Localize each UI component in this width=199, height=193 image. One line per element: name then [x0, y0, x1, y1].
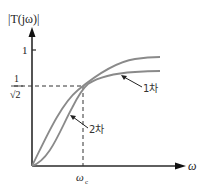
y-axis-title: |T(jω)|: [8, 12, 39, 26]
tick-label-half-power-numerator: 1: [14, 73, 19, 84]
cutoff-tick-subscript: c: [85, 178, 88, 186]
second-order-label: 2차: [89, 124, 104, 135]
x-axis-label: ω: [188, 159, 196, 173]
cutoff-tick-label: ω: [76, 171, 84, 183]
x-axis-arrow-icon: [175, 163, 186, 170]
second-order-pointer: [73, 117, 88, 128]
first-order-pointer: [124, 77, 142, 87]
frequency-response-diagram: |T(jω)| 1 1 √2 1차 2차 ω ω c: [0, 0, 199, 193]
first-order-arrow-icon: [121, 75, 127, 80]
first-order-label: 1차: [143, 83, 158, 94]
second-order-arrow-icon: [70, 115, 76, 120]
tick-label-one: 1: [22, 44, 28, 56]
tick-label-half-power-denominator: √2: [10, 89, 21, 100]
y-axis-arrow-icon: [29, 27, 36, 37]
second-order-curve: [32, 71, 160, 166]
